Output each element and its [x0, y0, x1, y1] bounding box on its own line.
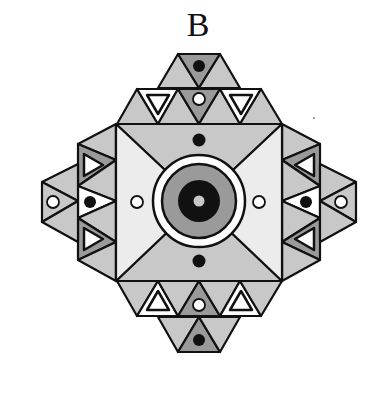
bottom-row-white-dot [193, 299, 205, 311]
left-column [78, 124, 116, 281]
square-bottom-black-dot [193, 255, 206, 268]
left-cap-white-dot [47, 196, 59, 208]
square-right-white-dot [253, 196, 265, 208]
top-cap-black-dot [193, 60, 205, 72]
square-left-white-dot [131, 196, 143, 208]
right-column-black-dot [300, 196, 312, 208]
left-column-black-dot [84, 196, 96, 208]
speck [313, 117, 315, 119]
top-row-white-dot [193, 93, 205, 105]
square-top-black-dot [193, 134, 206, 147]
mosaic-diagram [0, 0, 381, 410]
center-motif [153, 155, 245, 247]
bottom-cap-black-dot [193, 334, 205, 346]
right-cap-white-dot [335, 196, 347, 208]
